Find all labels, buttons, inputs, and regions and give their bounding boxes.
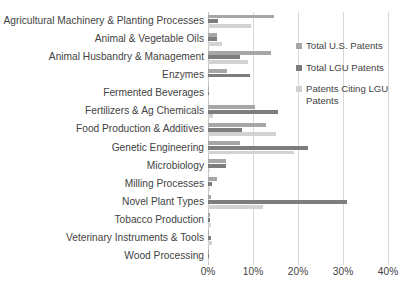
legend-item[interactable]: Patents Citing LGU Patents: [296, 83, 396, 106]
bar: [208, 37, 217, 41]
bar: [208, 92, 209, 96]
bar: [208, 60, 248, 64]
bar: [208, 24, 251, 28]
category-label: Microbiology: [147, 157, 204, 175]
bar: [208, 151, 294, 155]
legend-swatch-icon: [296, 86, 302, 92]
bar: [208, 132, 276, 136]
bar: [208, 241, 212, 245]
bar: [208, 114, 213, 118]
category-label: Milling Processes: [125, 175, 204, 193]
x-tick-label: 10%: [243, 266, 263, 277]
x-axis-tick-labels: 0%10%20%30%40%: [208, 266, 388, 284]
bar-group: [208, 211, 388, 229]
category-label: Agricultural Machinery & Planting Proces…: [4, 12, 204, 30]
bar: [208, 177, 217, 181]
grouped-bar-chart: Agricultural Machinery & Planting Proces…: [0, 0, 400, 290]
bar: [208, 231, 209, 235]
category-label: Veterinary Instruments & Tools: [66, 229, 204, 247]
category-label: Food Production & Additives: [76, 120, 204, 138]
bar: [208, 187, 210, 191]
bar: [208, 51, 271, 55]
category-label: Enzymes: [162, 66, 204, 84]
bar: [208, 33, 217, 37]
bar-group: [208, 193, 388, 211]
legend-label: Total U.S. Patents: [306, 40, 383, 52]
bar-group: [208, 139, 388, 157]
bar: [208, 78, 209, 82]
bar: [208, 141, 240, 145]
category-axis-labels: Agricultural Machinery & Planting Proces…: [0, 12, 204, 265]
bar: [208, 96, 209, 100]
bar: [208, 213, 210, 217]
legend-swatch-icon: [296, 43, 302, 49]
bar: [208, 218, 210, 222]
bar-group: [208, 229, 388, 247]
bar: [208, 195, 211, 199]
bar: [208, 128, 242, 132]
category-label: Animal Husbandry & Management: [49, 48, 204, 66]
x-tick-label: 20%: [288, 266, 308, 277]
bar: [208, 42, 222, 46]
bar: [208, 259, 209, 263]
x-tick-label: 0%: [201, 266, 216, 277]
bar: [208, 74, 250, 78]
bar: [208, 236, 211, 240]
bar: [208, 169, 210, 173]
category-label: Tobacco Production: [115, 211, 204, 229]
bar: [208, 164, 226, 168]
bar-group: [208, 120, 388, 138]
bar-group: [208, 157, 388, 175]
bar: [208, 205, 263, 209]
legend-label: Total LGU Patents: [306, 62, 384, 74]
legend-item[interactable]: Total U.S. Patents: [296, 40, 396, 52]
bar: [208, 110, 278, 114]
x-tick-label: 30%: [333, 266, 353, 277]
category-label: Wood Processing: [124, 247, 204, 265]
category-label: Genetic Engineering: [112, 139, 204, 157]
category-label: Animal & Vegetable Oils: [95, 30, 204, 48]
bar-group: [208, 175, 388, 193]
bar: [208, 200, 347, 204]
bar: [208, 105, 255, 109]
category-label: Novel Plant Types: [122, 193, 204, 211]
bar: [208, 19, 218, 23]
legend-swatch-icon: [296, 65, 302, 71]
x-tick-label: 40%: [378, 266, 398, 277]
legend-label: Patents Citing LGU Patents: [306, 83, 396, 106]
bar: [208, 254, 209, 258]
bar: [208, 182, 212, 186]
bar-group: [208, 247, 388, 265]
bar-group: [208, 12, 388, 30]
bar: [208, 250, 209, 254]
legend-item[interactable]: Total LGU Patents: [296, 62, 396, 74]
bar: [208, 87, 209, 91]
bar: [208, 146, 308, 150]
bar: [208, 223, 211, 227]
category-label: Fermented Beverages: [103, 84, 204, 102]
bar: [208, 55, 240, 59]
bar: [208, 123, 266, 127]
bar: [208, 15, 274, 19]
bar: [208, 159, 226, 163]
category-label: Fertilizers & Ag Chemicals: [85, 102, 204, 120]
bar: [208, 69, 227, 73]
chart-legend: Total U.S. PatentsTotal LGU PatentsPaten…: [296, 40, 396, 116]
